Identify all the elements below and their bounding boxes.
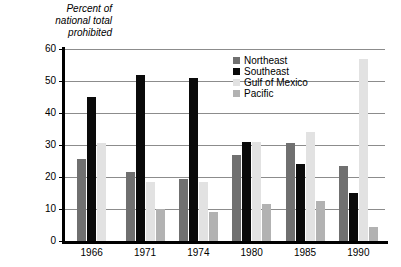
legend-item-gulf-of-mexico[interactable]: Gulf of Mexico [233,77,338,88]
legend-item-pacific[interactable]: Pacific [233,88,338,99]
y-axis-title-line1: Percent of [66,3,112,14]
bar-northeast-1974[interactable] [179,179,188,241]
x-tick-label-1974: 1974 [171,247,225,258]
y-tick-0: 0 [26,236,56,246]
legend-label-southeast: Southeast [244,66,289,77]
bar-southeast-1990[interactable] [349,193,358,241]
legend-item-northeast[interactable]: Northeast [233,55,338,66]
y-tick-label-0: 0 [32,236,56,246]
bar-northeast-1971[interactable] [126,172,135,241]
y-tick-label-10: 10 [32,204,56,214]
bar-gulf-of-mexico-1990[interactable] [359,59,368,241]
x-axis-line [62,241,388,244]
bar-southeast-1985[interactable] [296,164,305,241]
legend-swatch-icon-pacific [233,90,240,97]
legend-label-pacific: Pacific [244,88,273,99]
bar-gulf-of-mexico-1966[interactable] [97,143,106,241]
y-tick-40: 40 [26,108,56,118]
legend-swatch-icon-gulf-of-mexico [233,79,240,86]
legend-swatch-icon-northeast [233,57,240,64]
x-tick-label-1980: 1980 [225,247,279,258]
bar-southeast-1980[interactable] [242,142,251,241]
legend-label-gulf-of-mexico: Gulf of Mexico [244,77,308,88]
y-tick-label-20: 20 [32,172,56,182]
legend-item-southeast[interactable]: Southeast [233,66,338,77]
bar-pacific-1985[interactable] [316,201,325,241]
x-tick-label-1971: 1971 [118,247,172,258]
y-tick-mark-20 [59,177,63,178]
bar-northeast-1980[interactable] [232,155,241,241]
y-tick-label-30: 30 [32,140,56,150]
y-axis-title-line3: prohibited [68,27,112,38]
bar-southeast-1974[interactable] [189,78,198,241]
y-tick-mark-0 [59,241,63,242]
bar-gulf-of-mexico-1974[interactable] [199,182,208,241]
x-tick-label-1966: 1966 [65,247,119,258]
y-tick-mark-10 [59,209,63,210]
bar-gulf-of-mexico-1980[interactable] [252,142,261,241]
chart-legend: Northeast Southeast Gulf of Mexico Pacif… [233,55,338,99]
legend-label-northeast: Northeast [244,55,287,66]
bar-southeast-1966[interactable] [87,97,96,241]
y-tick-label-40: 40 [32,108,56,118]
bar-northeast-1985[interactable] [286,143,295,241]
y-axis-title-line2: national total [55,15,112,26]
y-tick-50: 50 [26,76,56,86]
bar-group-1990 [339,49,378,241]
y-tick-10: 10 [26,204,56,214]
y-tick-20: 20 [26,172,56,182]
bar-pacific-1974[interactable] [209,212,218,241]
y-tick-label-50: 50 [32,76,56,86]
x-tick-label-1990: 1990 [331,247,385,258]
bar-northeast-1990[interactable] [339,166,348,241]
bar-group-1966 [77,49,106,241]
bar-northeast-1966[interactable] [77,159,86,241]
y-tick-mark-50 [59,81,63,82]
y-tick-60: 60 [26,44,56,54]
bar-gulf-of-mexico-1971[interactable] [146,182,155,241]
bar-southeast-1971[interactable] [136,75,145,241]
bar-pacific-1971[interactable] [156,209,165,241]
bar-pacific-1980[interactable] [262,204,271,241]
y-tick-mark-60 [59,49,63,50]
y-tick-label-60: 60 [32,44,56,54]
legend-swatch-icon-southeast [233,68,240,75]
bar-group-1971 [126,49,165,241]
bar-pacific-1990[interactable] [369,227,378,241]
y-tick-30: 30 [26,140,56,150]
y-axis-title: Percent ofnational totalprohibited [4,3,112,40]
x-tick-label-1985: 1985 [278,247,332,258]
y-tick-mark-40 [59,113,63,114]
y-tick-mark-30 [59,145,63,146]
bar-gulf-of-mexico-1985[interactable] [306,132,315,241]
bar-group-1974 [179,49,218,241]
